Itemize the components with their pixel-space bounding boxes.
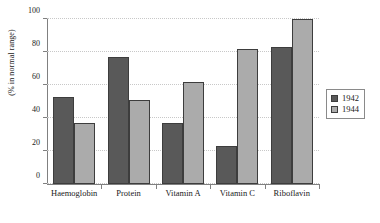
y-tick-label: 20: [32, 139, 40, 147]
legend-swatch-icon-1944: [331, 106, 338, 113]
plot-area: 020406080100: [47, 19, 319, 184]
bar-chart: (% in normal range) 020406080100 Haemogl…: [0, 0, 380, 223]
y-tick-label: 80: [32, 40, 40, 48]
bar-1944-vitamin-a[interactable]: [183, 82, 204, 184]
y-tick-mark: [43, 18, 47, 19]
bar-group: [53, 19, 95, 184]
x-axis-label-vitamin-a: Vitamin A: [156, 188, 210, 198]
bar-1944-vitamin-c[interactable]: [237, 49, 258, 184]
bar-1942-haemoglobin[interactable]: [53, 97, 74, 184]
x-axis-label-vitamin-c: Vitamin C: [210, 188, 264, 198]
bar-group: [108, 19, 150, 184]
bar-1942-vitamin-c[interactable]: [216, 146, 237, 184]
x-axis-label-protein: Protein: [101, 188, 155, 198]
bar-1942-vitamin-a[interactable]: [162, 123, 183, 184]
legend-swatch-icon-1942: [331, 95, 338, 102]
legend-label-1942: 1942: [342, 94, 359, 103]
bar-1944-riboflavin[interactable]: [292, 19, 313, 184]
legend-item-1942[interactable]: 1942: [331, 93, 359, 104]
y-tick-label: 40: [32, 106, 40, 114]
bar-group: [216, 19, 258, 184]
y-tick-mark: [43, 51, 47, 52]
y-tick-mark: [43, 117, 47, 118]
x-tick-mark: [319, 184, 320, 189]
legend-item-1944[interactable]: 1944: [331, 104, 359, 115]
x-axis-label-haemoglobin: Haemoglobin: [47, 188, 101, 198]
y-tick-mark: [43, 84, 47, 85]
y-tick-label: 100: [28, 7, 40, 15]
y-tick-label: 60: [32, 73, 40, 81]
x-axis-label-riboflavin: Riboflavin: [265, 188, 319, 198]
bar-group: [271, 19, 313, 184]
y-tick-mark: [43, 150, 47, 151]
bar-1942-protein[interactable]: [108, 57, 129, 184]
y-tick-label: 0: [36, 172, 40, 180]
bar-1942-riboflavin[interactable]: [271, 47, 292, 184]
bar-1944-protein[interactable]: [129, 100, 150, 184]
bar-group: [162, 19, 204, 184]
legend-label-1944: 1944: [342, 105, 359, 114]
bar-1944-haemoglobin[interactable]: [74, 123, 95, 184]
y-axis-title: (% in normal range): [7, 8, 16, 118]
y-tick-mark: [43, 183, 47, 184]
x-axis-line: [47, 184, 320, 185]
legend: 1942 1944: [326, 89, 365, 119]
